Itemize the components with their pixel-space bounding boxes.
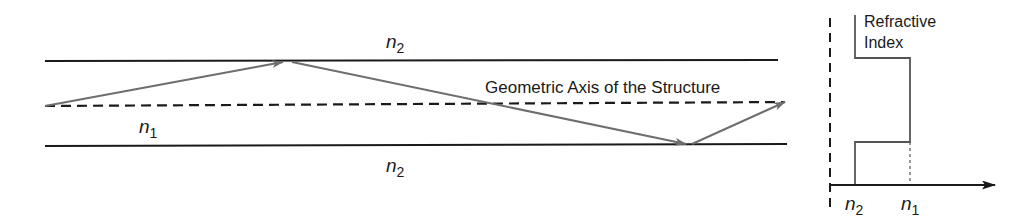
refractive-index-title-line1: Refractive — [864, 13, 936, 30]
core-index-label: n1 — [139, 116, 158, 141]
ray-segment-3 — [692, 102, 785, 144]
ray-segment-1 — [45, 62, 283, 106]
top-core-cladding-boundary — [45, 60, 778, 61]
profile-tick-n2: n2 — [845, 193, 864, 218]
bottom-cladding-index-label: n2 — [386, 155, 405, 180]
top-cladding-index-label: n2 — [386, 31, 405, 56]
refractive-index-title-line2: Index — [864, 34, 903, 51]
geometric-axis-dashed-line — [45, 102, 785, 106]
geometric-axis-label: Geometric Axis of the Structure — [485, 78, 720, 97]
bottom-core-cladding-boundary — [45, 144, 787, 146]
profile-tick-n1: n1 — [901, 193, 920, 218]
waveguide-diagram: n2 n1 n2 Geometric Axis of the Structure… — [0, 0, 1031, 219]
